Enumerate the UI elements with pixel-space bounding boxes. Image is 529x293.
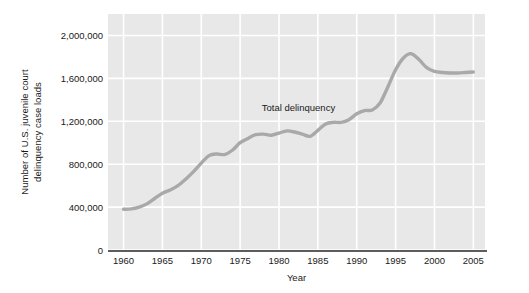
x-axis-tick-label: 1995 xyxy=(385,255,406,266)
series-annotation-total-delinquency: Total delinquency xyxy=(262,102,335,113)
y-axis-tick-label: 400,000 xyxy=(69,202,103,213)
x-axis-tick-label: 1965 xyxy=(152,255,173,266)
y-axis-tick-label: 2,000,000 xyxy=(61,30,103,41)
x-axis-tick-label: 1990 xyxy=(346,255,367,266)
chart-figure: Number of U.S. juvenile court delinquenc… xyxy=(0,0,529,293)
x-axis-title: Year xyxy=(108,272,485,283)
x-axis-tick-label: 1985 xyxy=(307,255,328,266)
x-axis-tick-label: 1975 xyxy=(230,255,251,266)
y-axis-tick-labels: 0400,000800,0001,200,0001,600,0002,000,0… xyxy=(0,14,103,250)
y-axis-tick-label: 1,600,000 xyxy=(61,73,103,84)
y-axis-tick-label: 0 xyxy=(98,245,103,256)
x-axis-tick-label: 2005 xyxy=(463,255,484,266)
x-axis-tick-labels: 1960196519701975198019851990199520002005 xyxy=(108,255,485,269)
y-axis-tick-label: 1,200,000 xyxy=(61,116,103,127)
x-axis-tick-label: 2000 xyxy=(424,255,445,266)
plot-svg xyxy=(108,14,485,250)
x-axis-tick-label: 1970 xyxy=(191,255,212,266)
x-axis-tick-label: 1980 xyxy=(268,255,289,266)
x-axis-tick-label: 1960 xyxy=(113,255,134,266)
series-line-total-delinquency xyxy=(124,54,474,210)
y-axis-tick-label: 800,000 xyxy=(69,159,103,170)
x-axis-line xyxy=(108,250,487,252)
plot-area xyxy=(108,14,485,250)
